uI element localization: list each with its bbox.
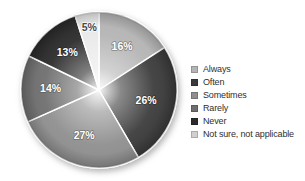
- legend-item[interactable]: Often: [191, 76, 305, 89]
- legend-swatch-icon: [191, 118, 198, 125]
- legend-item-label: Rarely: [203, 102, 228, 114]
- pie-slice-value-label: 26%: [136, 94, 158, 106]
- legend-item-label: Often: [203, 76, 224, 88]
- legend-item[interactable]: Rarely: [191, 102, 305, 115]
- pie-slice-value-label: 13%: [57, 46, 79, 58]
- legend-item[interactable]: Not sure, not applicable: [191, 128, 305, 141]
- legend-swatch-icon: [191, 66, 198, 73]
- pie-plot-area: 16%26%27%14%13%5%: [0, 0, 190, 181]
- pie-chart-figure: 16%26%27%14%13%5% AlwaysOftenSometimesRa…: [0, 0, 305, 181]
- pie-slice-value-label: 5%: [82, 21, 98, 33]
- legend-item-label: Sometimes: [203, 89, 247, 101]
- legend-swatch-icon: [191, 92, 198, 99]
- legend-item[interactable]: Sometimes: [191, 89, 305, 102]
- legend-swatch-icon: [191, 105, 198, 112]
- pie-slice-value-label: 27%: [74, 129, 96, 141]
- legend-item[interactable]: Always: [191, 63, 305, 76]
- legend-item-label: Not sure, not applicable: [203, 128, 294, 140]
- legend-swatch-icon: [191, 79, 198, 86]
- legend-swatch-icon: [191, 131, 198, 138]
- legend-item[interactable]: Never: [191, 115, 305, 128]
- legend-item-label: Never: [203, 115, 226, 127]
- pie-svg: 16%26%27%14%13%5%: [0, 0, 190, 181]
- pie-slice-value-label: 16%: [112, 40, 134, 52]
- chart-legend: AlwaysOftenSometimesRarelyNeverNot sure,…: [191, 63, 305, 141]
- legend-item-label: Always: [203, 63, 231, 75]
- pie-slice-value-label: 14%: [40, 82, 62, 94]
